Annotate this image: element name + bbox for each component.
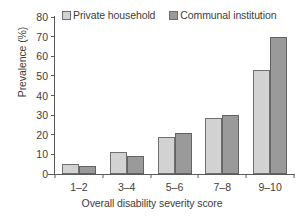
x-axis-tick-mark <box>198 174 199 178</box>
bar-communal-institution <box>270 37 287 174</box>
y-axis-tick-label: 60 <box>32 50 48 62</box>
bar-communal-institution <box>222 115 239 174</box>
bar-chart-figure: Private household Communal institution P… <box>0 0 304 219</box>
y-axis-title: Prevalence (%) <box>16 2 28 122</box>
bar-communal-institution <box>175 133 192 174</box>
x-axis-tick-mark <box>55 174 56 178</box>
x-axis-tick-mark <box>150 174 151 178</box>
x-axis-title: Overall disability severity score <box>0 197 304 209</box>
y-axis-tick-label: 20 <box>32 129 48 141</box>
y-axis-tick-mark <box>51 75 55 76</box>
y-axis-tick: 30 <box>32 109 55 121</box>
y-axis-tick: 60 <box>32 50 55 62</box>
y-axis-tick: 50 <box>32 70 55 82</box>
y-axis-tick: 70 <box>32 31 55 43</box>
bar-private-household <box>205 118 222 174</box>
y-axis-tick-label: 40 <box>32 90 48 102</box>
y-axis-tick-mark <box>51 17 55 18</box>
y-axis-tick-label: 70 <box>32 31 48 43</box>
plot-area: 010203040506070801–23–45–67–89–10 <box>55 17 294 174</box>
bar-private-household <box>62 164 79 174</box>
y-axis-tick-mark <box>51 115 55 116</box>
y-axis-tick: 10 <box>32 148 55 160</box>
y-axis-tick-label: 0 <box>32 168 48 180</box>
y-axis-tick-mark <box>51 154 55 155</box>
x-axis-tick-label: 1–2 <box>70 181 88 193</box>
bar-private-household <box>110 152 127 174</box>
y-axis-tick: 40 <box>32 90 55 102</box>
x-axis-tick-label: 7–8 <box>214 181 232 193</box>
x-axis-tick-label: 9–10 <box>258 181 281 193</box>
y-axis-tick-label: 10 <box>32 148 48 160</box>
bar-private-household <box>253 70 270 174</box>
y-axis-tick-mark <box>51 56 55 57</box>
x-axis-line <box>48 174 295 175</box>
x-axis-tick-label: 5–6 <box>166 181 184 193</box>
x-axis-tick-label: 3–4 <box>118 181 136 193</box>
y-axis-tick-mark <box>51 95 55 96</box>
y-axis-tick-label: 50 <box>32 70 48 82</box>
y-axis-tick: 80 <box>32 11 55 23</box>
y-axis-tick-mark <box>51 134 55 135</box>
bar-communal-institution <box>79 166 96 174</box>
y-axis-tick-label: 80 <box>32 11 48 23</box>
x-axis-tick-mark <box>246 174 247 178</box>
y-axis-tick-label: 30 <box>32 109 48 121</box>
y-axis-tick: 20 <box>32 129 55 141</box>
y-axis-tick: 0 <box>32 168 55 180</box>
x-axis-tick-mark <box>294 174 295 178</box>
bar-private-household <box>158 137 175 174</box>
y-axis-tick-mark <box>51 36 55 37</box>
x-axis-tick-mark <box>102 174 103 178</box>
bar-communal-institution <box>127 156 144 174</box>
